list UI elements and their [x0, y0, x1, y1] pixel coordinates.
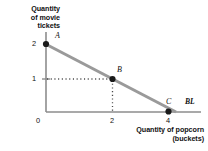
y-tick-label-2: 2: [28, 39, 40, 48]
x-axis-title: Quantity of popcorn (buckets): [96, 126, 204, 143]
y-axis-title: Quantity of movie tickets: [2, 5, 60, 31]
point-label-c: C: [166, 97, 171, 106]
x-tick-label-2: 2: [106, 116, 118, 125]
x-tick-label-4: 4: [162, 116, 174, 125]
budget-line-figure: Quantity of movie tickets Quantity of po…: [0, 0, 208, 151]
budget-line-label: BL: [185, 97, 195, 106]
point-label-a: A: [55, 31, 60, 40]
origin-label: 0: [32, 116, 44, 125]
point-b[interactable]: [109, 76, 115, 82]
point-a[interactable]: [43, 41, 49, 47]
point-label-b: B: [117, 65, 122, 74]
point-c[interactable]: [165, 108, 171, 114]
y-tick-label-1: 1: [28, 74, 40, 83]
